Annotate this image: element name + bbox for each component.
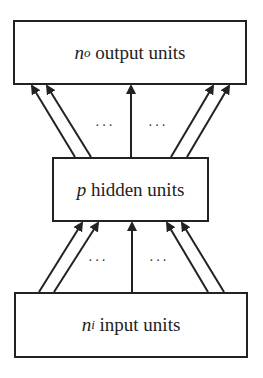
input-label: input units: [100, 314, 181, 336]
ellipsis-upper-right: ···: [148, 118, 168, 134]
output-var: n: [74, 42, 84, 64]
hidden-label: hidden units: [91, 179, 184, 201]
ellipsis-upper-left: ···: [95, 118, 115, 134]
output-label: output units: [95, 42, 185, 64]
hidden-layer-box: p hidden units: [52, 157, 209, 222]
output-layer-box: no output units: [13, 20, 247, 85]
ellipsis-lower-right: ···: [149, 253, 169, 269]
output-sub: o: [84, 45, 91, 61]
hidden-var: p: [77, 179, 87, 201]
input-var: n: [82, 314, 92, 336]
input-sub: i: [91, 317, 95, 333]
input-layer-box: ni input units: [14, 292, 248, 358]
ellipsis-lower-left: ···: [88, 253, 108, 269]
